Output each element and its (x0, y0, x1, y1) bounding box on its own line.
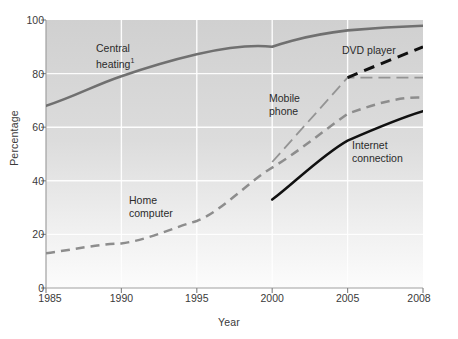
y-tick-80: 80 (10, 68, 44, 80)
y-tick-20: 20 (10, 228, 44, 240)
x-tick-2008: 2008 (407, 292, 430, 304)
series-label-internet-connection: Internet connection (352, 139, 403, 164)
x-tick-marks (46, 288, 423, 293)
y-axis-title: Percentage (8, 98, 20, 178)
line-chart: 100 80 60 40 20 0 1985 1990 1995 2000 20… (0, 0, 458, 339)
y-tick-100: 100 (10, 14, 44, 26)
x-tick-2000: 2000 (261, 292, 284, 304)
x-tick-1995: 1995 (185, 292, 208, 304)
x-axis-title: Year (0, 316, 458, 328)
series-label-home-computer: Home computer (129, 194, 173, 219)
x-tick-2005: 2005 (336, 292, 359, 304)
x-tick-1985: 1985 (38, 292, 61, 304)
central-heating-line2: heating (96, 57, 130, 69)
home-computer-line1: Home (129, 194, 157, 206)
internet-connection-line1: Internet (352, 139, 388, 151)
series-label-mobile-phone: Mobile phone (269, 92, 300, 117)
x-tick-1990: 1990 (110, 292, 133, 304)
series-label-central-heating: Central heating1 (96, 42, 134, 70)
central-heating-footnote-marker: 1 (130, 57, 134, 64)
home-computer-line2: computer (129, 207, 173, 219)
mobile-phone-line2: phone (269, 105, 298, 117)
central-heating-line1: Central (96, 42, 130, 54)
mobile-phone-line1: Mobile (269, 92, 300, 104)
internet-connection-line2: connection (352, 152, 403, 164)
series-label-dvd-player: DVD player (342, 44, 396, 57)
